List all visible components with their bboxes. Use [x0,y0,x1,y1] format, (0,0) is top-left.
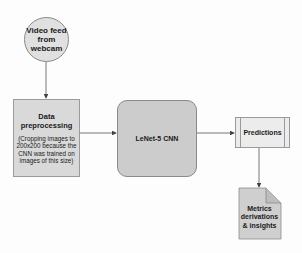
node-cnn-label: LeNet-5 CNN [136,135,179,142]
node-preprocessing-subtitle: (Cropping images to 200x200 because the … [16,135,77,165]
node-cnn: LeNet-5 CNN [117,100,197,177]
node-predictions: Predictions [235,117,290,148]
node-metrics: Metrics derivations & insights [239,188,280,239]
node-preprocessing: Data preprocessing (Cropping images to 2… [13,99,80,177]
node-preprocessing-title: Data preprocessing [16,112,77,130]
node-metrics-label: Metrics derivations & insights [239,205,280,231]
node-predictions-label: Predictions [243,129,281,136]
node-webcam: Video feed from webcam [24,17,69,62]
process-bar-right [284,118,285,147]
process-bar-left [240,118,241,147]
node-webcam-label: Video feed from webcam [25,26,68,53]
